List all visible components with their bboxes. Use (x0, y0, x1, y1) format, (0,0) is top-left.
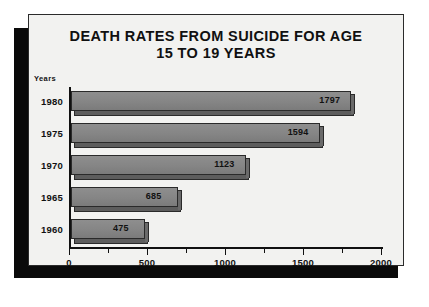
y-tick-label-1975: 1975 (27, 128, 63, 139)
x-tick-label-500: 500 (122, 257, 172, 268)
chart-title-line-2: 15 TO 19 YEARS (29, 45, 403, 62)
bar-value-label: 1123 (214, 159, 234, 169)
y-axis-title: Years (34, 74, 56, 83)
x-minor-tick (264, 249, 265, 253)
x-axis-line (69, 247, 383, 249)
y-tick-label-1965: 1965 (27, 192, 63, 203)
x-tick-label-1000: 1000 (200, 257, 250, 268)
y-tick-label-1960: 1960 (27, 224, 63, 235)
bar-right-bevel (145, 222, 149, 242)
x-tick (147, 249, 148, 255)
plot-area: 179715941123685475 19801975197019651960 … (69, 87, 381, 249)
bar-right-bevel (320, 126, 324, 146)
x-tick-label-2000: 2000 (356, 257, 406, 268)
x-tick (303, 249, 304, 255)
y-tick-label-1970: 1970 (27, 160, 63, 171)
bar-bottom-bevel (74, 111, 354, 116)
chart-title: DEATH RATES FROM SUICIDE FOR AGE 15 TO 1… (29, 28, 403, 62)
chart-card: DEATH RATES FROM SUICIDE FOR AGE 15 TO 1… (28, 14, 404, 266)
bar-value-label: 1594 (288, 127, 309, 137)
bar-1975 (71, 123, 320, 143)
bar-value-label: 1797 (319, 95, 340, 105)
x-minor-tick (342, 249, 343, 253)
bar-right-bevel (351, 94, 355, 114)
x-tick-label-0: 0 (44, 257, 94, 268)
bar-bottom-bevel (74, 175, 249, 180)
bar-right-bevel (246, 158, 250, 178)
x-minor-tick (186, 249, 187, 253)
x-minor-tick (108, 249, 109, 253)
bar-bottom-bevel (74, 143, 323, 148)
bar-1965 (71, 187, 178, 207)
bar-value-label: 685 (146, 191, 162, 201)
bar-value-label: 475 (113, 223, 129, 233)
y-tick-label-1980: 1980 (27, 96, 63, 107)
bar-bottom-bevel (74, 239, 148, 244)
bar-bottom-bevel (74, 207, 181, 212)
bar-right-bevel (178, 190, 182, 210)
x-tick (225, 249, 226, 255)
x-tick (381, 249, 382, 255)
x-tick-label-1500: 1500 (278, 257, 328, 268)
chart-title-line-1: DEATH RATES FROM SUICIDE FOR AGE (70, 28, 363, 44)
bar-1960 (71, 219, 145, 239)
bar-1980 (71, 91, 351, 111)
x-tick (69, 249, 70, 255)
